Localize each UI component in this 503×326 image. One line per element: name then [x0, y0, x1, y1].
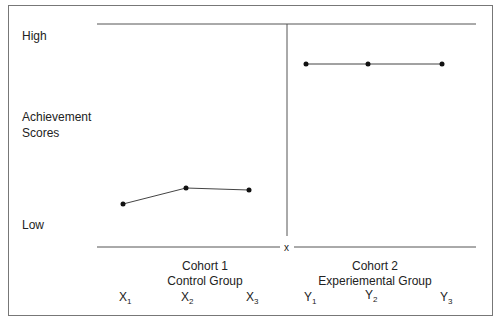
data-point-y2 [366, 62, 371, 67]
data-point-y3 [440, 62, 445, 67]
y-label-high: High [22, 29, 47, 44]
data-point-y1 [304, 62, 309, 67]
cohort1-name: Cohort 1 [150, 259, 260, 274]
y-axis-title-line2: Scores [22, 126, 59, 141]
data-point-x2 [184, 186, 189, 191]
y-label-low: Low [22, 218, 44, 233]
axis-marker: x [284, 240, 289, 255]
cohort1-group: Control Group [140, 274, 270, 289]
data-point-x1 [121, 202, 126, 207]
y1-label: Y1 [304, 290, 316, 309]
y-axis-title-line1: Achievement [22, 110, 91, 125]
x1-label: X1 [119, 290, 131, 309]
y2-label: Y2 [365, 288, 377, 307]
data-point-x3 [247, 188, 252, 193]
cohort2-name: Cohort 2 [320, 259, 430, 274]
y3-label: Y3 [440, 290, 452, 309]
x2-label: X2 [181, 290, 193, 309]
cohort2-group: Experiemental Group [305, 274, 445, 289]
x3-label: X3 [246, 290, 258, 309]
